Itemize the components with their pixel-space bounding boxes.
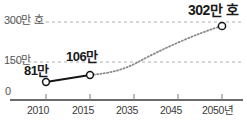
y-axis-label-300: 300만 호 (4, 15, 44, 26)
data-point-2050 (218, 22, 225, 29)
housing-projection-line-chart: 300만 호 150만 0 2010 2015 2035 2045 2050년 … (0, 0, 247, 128)
data-point-2015 (87, 72, 94, 79)
x-axis-label-2050: 2050년 (202, 105, 234, 116)
y-axis-label-zero: 0 (5, 86, 11, 97)
actual-series-line (46, 75, 90, 82)
x-axis-label-2035: 2035 (116, 105, 138, 116)
x-axis-label-2010: 2010 (27, 105, 49, 116)
x-axis-label-2015: 2015 (72, 105, 94, 116)
data-label-2010: 81만 (24, 64, 49, 77)
x-axis-label-2045: 2045 (160, 105, 182, 116)
projection-series-line (90, 26, 222, 75)
data-point-2010 (43, 79, 50, 86)
data-label-2015: 106만 (66, 50, 98, 63)
data-label-2050: 302만 호 (188, 3, 238, 17)
